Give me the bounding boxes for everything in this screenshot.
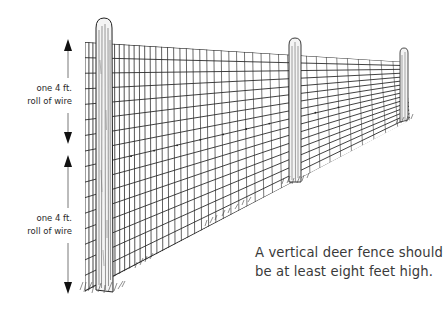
fence-post-far xyxy=(400,48,408,122)
dimension-label-lower-line2: roll of wire xyxy=(2,225,72,238)
caption-line2: be at least eight feet high. xyxy=(255,262,443,281)
fence-post-front xyxy=(96,18,113,292)
dimension-label-upper-line1: one 4 ft. xyxy=(2,82,72,95)
caption: A vertical deer fence should be at least… xyxy=(255,243,443,281)
dimension-label-upper-line2: roll of wire xyxy=(2,95,72,108)
dimension-label-lower: one 4 ft. roll of wire xyxy=(2,212,72,238)
fence-post-middle xyxy=(289,38,301,182)
dimension-label-lower-line1: one 4 ft. xyxy=(2,212,72,225)
caption-line1: A vertical deer fence should xyxy=(255,243,443,262)
dimension-label-upper: one 4 ft. roll of wire xyxy=(2,82,72,108)
